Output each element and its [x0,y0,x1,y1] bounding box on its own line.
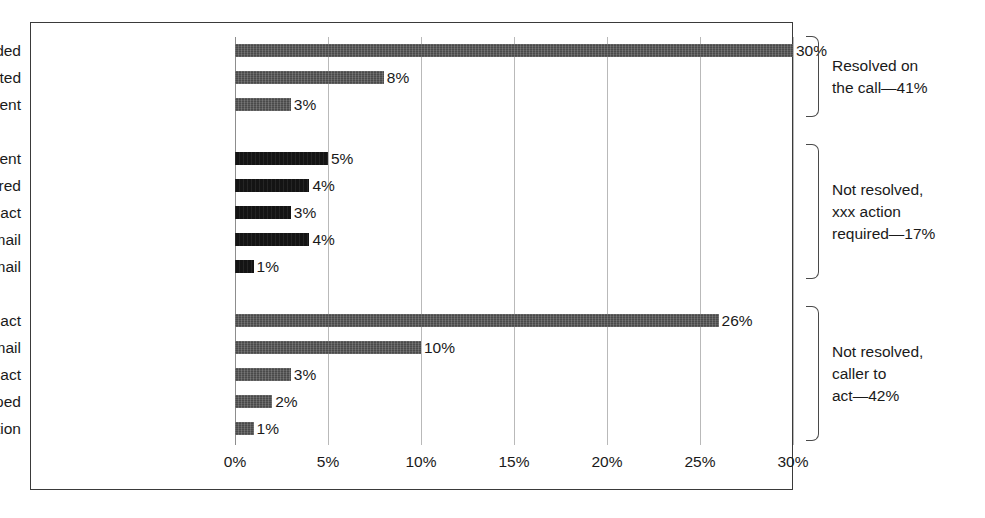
bar [235,152,328,165]
x-tick-5: 5% [298,453,358,471]
bar-row: Form requested—mail4% [31,226,792,253]
bar [235,422,254,435]
bar-value-label: 3% [294,96,316,114]
bar [235,98,291,111]
bar-value-label: 3% [294,204,316,222]
bar-value-label: 8% [387,69,409,87]
bar-value-label: 3% [294,366,316,384]
x-tick-25: 25% [670,453,730,471]
bar [235,206,291,219]
bar [235,395,272,408]
bar-and-value: 8% [235,64,409,91]
bar-and-value: 1% [235,253,279,280]
bar-value-label: 10% [424,339,455,357]
bar [235,71,384,84]
bar [235,233,309,246]
gridline-30 [793,37,794,445]
bar-row: Call dropped2% [31,388,792,415]
bar-row: Form sent—email10% [31,334,792,361]
bar-value-label: 1% [257,258,279,276]
category-label: Form sent—email [0,334,21,361]
bar-and-value: 2% [235,388,298,415]
category-label: No clear action [0,415,21,442]
bar [235,260,254,273]
group-bracket-2: Not resolved, xxx action required—17% [806,144,935,279]
x-axis-tick-labels: 0%5%10%15%20%25%30% [31,453,792,479]
bar-value-label: 5% [331,150,353,168]
bar-row: Form requested—email1% [31,253,792,280]
bracket-icon [806,144,819,279]
bar-row: Member to act26% [31,307,792,334]
category-label: XXX to act [0,199,21,226]
group-annotation-label: Not resolved, xxx action required—17% [832,179,935,245]
bar-and-value: 26% [235,307,753,334]
x-tick-30: 30% [763,453,823,471]
bar-row: Statement sent3% [31,91,792,118]
group-annotation-label: Resolved on the call—41% [832,55,928,99]
category-label: Statement sent [0,91,21,118]
bar [235,368,291,381]
bar-and-value: 3% [235,91,316,118]
bar-and-value: 30% [235,37,827,64]
bar-row: Work request sent5% [31,145,792,172]
bar [235,314,719,327]
bar-value-label: 26% [722,312,753,330]
bar-value-label: 2% [275,393,297,411]
category-label: Call transferred [0,172,21,199]
bar-row: No clear action1% [31,415,792,442]
bar [235,341,421,354]
category-label: Member to act [0,307,21,334]
group-bracket-1: Resolved on the call—41% [806,36,928,117]
x-tick-15: 15% [484,453,544,471]
bar-and-value: 4% [235,226,335,253]
category-label: Prospect to act [0,361,21,388]
bar-value-label: 4% [312,231,334,249]
bar-value-label: 4% [312,177,334,195]
bar-and-value: 1% [235,415,279,442]
group-spacer [31,118,792,145]
category-label: Form requested—mail [0,226,21,253]
category-label: Work request sent [0,145,21,172]
chart-canvas: Information provided30%Process completed… [0,0,985,518]
bracket-icon [806,306,819,441]
bar [235,179,309,192]
x-tick-10: 10% [391,453,451,471]
bar-value-label: 1% [257,420,279,438]
plot-area: Information provided30%Process completed… [30,22,793,490]
bracket-icon [806,36,819,117]
bar-and-value: 4% [235,172,335,199]
bar-rows: Information provided30%Process completed… [31,37,792,442]
category-label: Form requested—email [0,253,21,280]
bar-and-value: 10% [235,334,455,361]
bar-and-value: 5% [235,145,353,172]
group-spacer [31,280,792,307]
bar-and-value: 3% [235,199,316,226]
bar [235,44,793,57]
bar-row: Process completed8% [31,64,792,91]
category-label: Call dropped [0,388,21,415]
bar-row: Call transferred4% [31,172,792,199]
bar-row: Prospect to act3% [31,361,792,388]
category-label: Process completed [0,64,21,91]
bar-and-value: 3% [235,361,316,388]
category-label: Information provided [0,37,21,64]
x-tick-0: 0% [205,453,265,471]
bar-row: XXX to act3% [31,199,792,226]
group-annotation-label: Not resolved, caller to act—42% [832,341,923,407]
x-tick-20: 20% [577,453,637,471]
group-bracket-3: Not resolved, caller to act—42% [806,306,923,441]
bar-row: Information provided30% [31,37,792,64]
